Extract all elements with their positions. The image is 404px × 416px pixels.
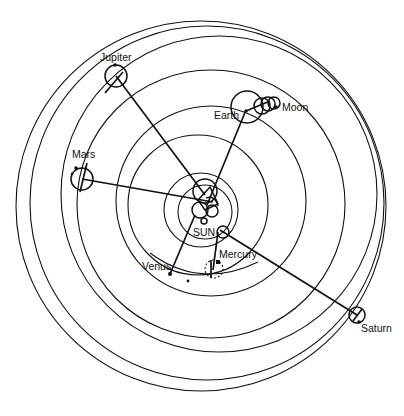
saturn-ray bbox=[220, 230, 357, 315]
venus-small-dot bbox=[187, 280, 190, 283]
mars-epicycle bbox=[71, 163, 93, 192]
venus-ray bbox=[170, 215, 195, 274]
label-venus: Venus bbox=[142, 260, 171, 272]
label-mercury: Mercury bbox=[219, 248, 258, 260]
label-sun: SUN bbox=[193, 226, 215, 238]
jupiter-epicycle bbox=[105, 63, 127, 93]
label-moon: Moon bbox=[282, 101, 308, 113]
solar-system-diagram: Jupiter Mars Earth Moon SUN Mercury Venu… bbox=[0, 0, 404, 416]
earth-ray bbox=[207, 110, 246, 205]
label-mars: Mars bbox=[72, 148, 95, 160]
label-jupiter: Jupiter bbox=[100, 51, 132, 63]
label-saturn: Saturn bbox=[361, 322, 392, 334]
label-earth: Earth bbox=[214, 109, 239, 121]
venus-dot bbox=[168, 272, 172, 276]
